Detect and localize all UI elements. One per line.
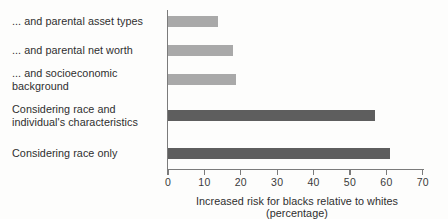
category-label-race-and-individual-characteristics: Considering race and individual's charac… <box>12 103 160 129</box>
category-label-line: ... and parental asset types <box>12 15 143 27</box>
category-label-parental-net-worth: ... and parental net worth <box>12 44 160 57</box>
bar-parental-net-worth <box>168 45 233 56</box>
x-axis-tick-label-30: 30 <box>262 176 292 188</box>
category-label-line: individual's characteristics <box>12 116 160 129</box>
x-axis-tick-30 <box>277 170 278 175</box>
x-axis-tick-0 <box>167 170 168 175</box>
category-label-line: background <box>12 80 160 93</box>
x-axis-tick-70 <box>422 170 423 175</box>
x-axis-tick-40 <box>313 170 314 175</box>
category-label-race-only: Considering race only <box>12 147 160 160</box>
bar-socioeconomic-background <box>168 74 236 85</box>
y-axis-line <box>167 10 168 170</box>
plot-area: 0 10 20 30 40 50 60 70 ... and parental … <box>0 0 448 219</box>
x-axis-tick-60 <box>386 170 387 175</box>
category-label-line: Considering race only <box>12 147 117 159</box>
x-axis-title: Increased risk for blacks relative to wh… <box>168 195 426 219</box>
bar-race-only <box>168 148 390 159</box>
x-axis-tick-10 <box>204 170 205 175</box>
category-label-line: ... and parental net worth <box>12 44 133 56</box>
x-axis-tick-label-10: 10 <box>189 176 219 188</box>
x-axis-tick-label-0: 0 <box>153 176 183 188</box>
category-label-line: ... and socioeconomic <box>12 67 160 80</box>
category-label-socioeconomic-background: ... and socioeconomic background <box>12 67 160 93</box>
x-axis-tick-20 <box>240 170 241 175</box>
x-axis-tick-label-50: 50 <box>335 176 365 188</box>
x-axis-tick-label-40: 40 <box>299 176 329 188</box>
x-axis-tick-label-20: 20 <box>226 176 256 188</box>
bar-parental-asset-types <box>168 16 218 27</box>
horizontal-bar-chart: 0 10 20 30 40 50 60 70 ... and parental … <box>0 0 448 219</box>
category-label-line: Considering race and <box>12 103 160 116</box>
x-axis-tick-label-60: 60 <box>371 176 401 188</box>
x-axis-tick-50 <box>349 170 350 175</box>
category-label-parental-asset-types: ... and parental asset types <box>12 15 160 28</box>
bar-race-and-individual-characteristics <box>168 110 375 121</box>
x-axis-tick-label-70: 70 <box>408 176 438 188</box>
